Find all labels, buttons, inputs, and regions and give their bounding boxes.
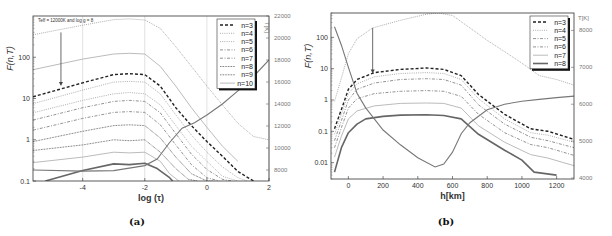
- x-tick-label: 1200: [549, 182, 565, 189]
- x-tick-label: 600: [447, 182, 459, 189]
- legend-item: n=9: [241, 71, 253, 78]
- y-tick-label: 100: [18, 54, 30, 61]
- right-axis-label: T[K]: [578, 15, 589, 21]
- x-tick-label: 0: [205, 184, 209, 191]
- caption-a: (a): [129, 216, 145, 227]
- y-tick-label: 0.01: [314, 159, 328, 166]
- legend: n=3n=4n=5n=6n=7n=8: [530, 16, 570, 71]
- panel-a-chart: -4-2020.11101008000100001200014000160001…: [5, 13, 291, 203]
- legend-item: n=8: [554, 60, 566, 67]
- series-line: [335, 91, 575, 156]
- y-tick-label: 0.1: [20, 178, 30, 185]
- x-tick-label: -4: [80, 184, 86, 191]
- y-tick-label: 1: [324, 96, 328, 103]
- x-axis-label: log (τ): [138, 193, 164, 203]
- x-tick-label: 2: [267, 184, 271, 191]
- x-tick-label: 800: [481, 182, 493, 189]
- legend-item: n=6: [241, 46, 253, 53]
- right-tick-label: 5000: [579, 138, 593, 144]
- legend-item: n=7: [554, 52, 566, 59]
- legend-item: n=10: [237, 80, 253, 87]
- legend-item: n=4: [554, 27, 566, 34]
- series-line: [33, 152, 179, 181]
- legend-item: n=3: [554, 19, 566, 26]
- right-tick-label: 12000: [274, 123, 291, 129]
- y-tick-label: 0.1: [318, 128, 328, 135]
- legend-item: n=8: [241, 63, 253, 70]
- legend-item: n=7: [241, 55, 253, 62]
- x-tick-label: 0: [346, 182, 350, 189]
- legend-item: n=5: [241, 38, 253, 45]
- x-tick-label: 200: [377, 182, 389, 189]
- right-tick-label: 7000: [579, 64, 593, 70]
- legend: n=3n=4n=5n=6n=7n=8n=9n=10: [217, 19, 257, 90]
- legend-item: n=3: [241, 22, 253, 29]
- y-tick-label: 10: [22, 95, 30, 102]
- y-tick-label: 1: [26, 136, 30, 143]
- arrow-head-icon: [371, 70, 375, 74]
- legend-item: n=4: [241, 30, 253, 37]
- series-line: [335, 115, 557, 175]
- right-tick-label: 10000: [274, 145, 291, 151]
- chart-annotation: Teff = 12000K and log g = 8: [38, 18, 94, 23]
- series-line: [45, 163, 172, 181]
- panel-b-chart: 0200400600800100012000.010.1110100400050…: [303, 13, 593, 201]
- series-line: [33, 140, 198, 181]
- y-axis-label: F(n,T): [5, 46, 15, 71]
- y-tick-label: 10: [320, 65, 328, 72]
- y-tick-label: 100: [316, 34, 328, 41]
- series-line: [335, 103, 575, 166]
- right-tick-label: 4000: [579, 175, 593, 181]
- right-tick-label: 14000: [274, 101, 291, 107]
- caption-b: (b): [438, 216, 454, 227]
- x-tick-label: 400: [412, 182, 424, 189]
- right-tick-label: 8000: [274, 167, 288, 173]
- right-tick-label: 22000: [274, 13, 291, 19]
- legend-item: n=6: [554, 43, 566, 50]
- x-tick-label: -2: [142, 184, 148, 191]
- right-tick-label: 8000: [579, 27, 593, 33]
- arrow-head-icon: [59, 82, 63, 86]
- series-line: [33, 100, 232, 181]
- right-tick-label: 18000: [274, 57, 291, 63]
- right-axis-label: T[K]: [264, 22, 270, 33]
- x-tick-label: 1000: [514, 182, 530, 189]
- right-tick-label: 6000: [579, 101, 593, 107]
- legend-item: n=5: [554, 35, 566, 42]
- x-axis-label: h[km]: [440, 191, 465, 201]
- figure: -4-2020.11101008000100001200014000160001…: [0, 0, 612, 236]
- right-tick-label: 16000: [274, 79, 291, 85]
- y-axis-label: F(n,T): [303, 44, 313, 69]
- right-tick-label: 20000: [274, 35, 291, 41]
